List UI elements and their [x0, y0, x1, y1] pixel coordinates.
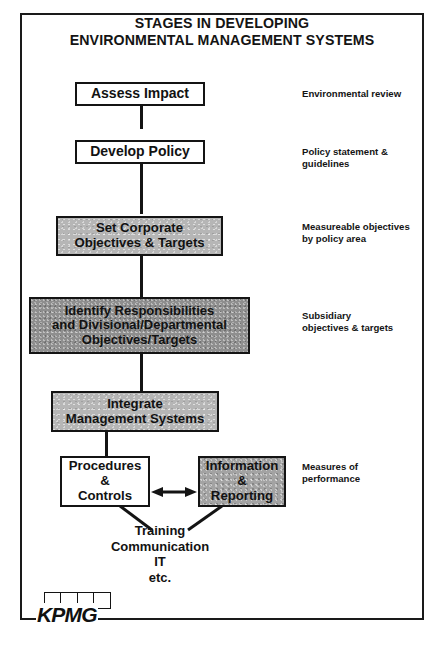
node-assess-impact-line-1: Assess Impact	[91, 86, 189, 102]
node-procedures-controls-line-3: Controls	[78, 489, 132, 504]
node-identify-responsibilities-line-2: and Divisional/Departmental	[52, 318, 227, 333]
annotation-measureable-objectives: Measureable objectives by policy area	[302, 221, 410, 244]
node-information-reporting-line-2: &	[237, 474, 247, 489]
connector-assess-to-policy	[140, 105, 143, 129]
annotation-subsidiary-objectives: Subsidiary objectives & targets	[302, 310, 393, 333]
kpmg-logo: KPMG	[36, 592, 128, 632]
connector-responsibilities-to-integrate	[140, 354, 143, 391]
page-title-line-1: STAGES IN DEVELOPING	[24, 15, 420, 32]
caption-line-2: Communication	[60, 539, 260, 555]
annotation-subsidiary-objectives-line-2: objectives & targets	[302, 322, 393, 334]
node-assess-impact[interactable]: Assess Impact	[75, 82, 205, 106]
node-procedures-controls-line-2: &	[100, 474, 110, 489]
annotation-policy-statement-line-2: guidelines	[302, 158, 388, 170]
annotation-measureable-objectives-line-1: Measureable objectives	[302, 221, 410, 233]
node-set-corporate-objectives[interactable]: Set Corporate Objectives & Targets	[56, 216, 223, 256]
node-information-reporting-line-3: Reporting	[211, 489, 273, 504]
annotation-subsidiary-objectives-line-1: Subsidiary	[302, 310, 393, 322]
connector-objectives-to-responsibilities	[140, 256, 143, 297]
node-information-reporting[interactable]: Information & Reporting	[198, 456, 286, 507]
page-title: STAGES IN DEVELOPING ENVIRONMENTAL MANAG…	[24, 15, 420, 49]
caption-training-block: Training Communication IT etc.	[60, 523, 260, 585]
diagram-page: STAGES IN DEVELOPING ENVIRONMENTAL MANAG…	[0, 0, 447, 645]
annotation-measures-of-performance-line-2: performance	[302, 473, 360, 485]
annotation-environmental-review-line-1: Environmental review	[302, 88, 401, 100]
caption-line-3: IT	[60, 554, 260, 570]
connector-policy-to-objectives	[140, 163, 143, 214]
node-integrate-management-systems-line-2: Management Systems	[66, 412, 205, 427]
node-procedures-controls-line-1: Procedures	[69, 459, 142, 474]
caption-line-1: Training	[60, 523, 260, 539]
page-title-line-2: ENVIRONMENTAL MANAGEMENT SYSTEMS	[24, 32, 420, 49]
annotation-measureable-objectives-line-2: by policy area	[302, 233, 410, 245]
annotation-environmental-review: Environmental review	[302, 88, 401, 100]
node-set-corporate-objectives-line-2: Objectives & Targets	[74, 236, 204, 251]
node-develop-policy-line-1: Develop Policy	[90, 144, 190, 160]
annotation-policy-statement-line-1: Policy statement &	[302, 146, 388, 158]
node-develop-policy[interactable]: Develop Policy	[75, 140, 205, 164]
annotation-policy-statement: Policy statement & guidelines	[302, 146, 388, 169]
node-set-corporate-objectives-line-1: Set Corporate	[96, 221, 183, 236]
node-integrate-management-systems-line-1: Integrate	[107, 397, 163, 412]
node-integrate-management-systems[interactable]: Integrate Management Systems	[51, 391, 219, 432]
kpmg-wordmark: KPMG	[36, 603, 98, 627]
caption-line-4: etc.	[60, 570, 260, 586]
node-identify-responsibilities[interactable]: Identify Responsibilities and Divisional…	[29, 297, 250, 354]
node-identify-responsibilities-line-3: Objectives/Targets	[82, 333, 197, 348]
annotation-measures-of-performance-line-1: Measures of	[302, 461, 360, 473]
node-identify-responsibilities-line-1: Identify Responsibilities	[65, 304, 215, 319]
node-procedures-controls[interactable]: Procedures & Controls	[60, 456, 150, 507]
annotation-measures-of-performance: Measures of performance	[302, 461, 360, 484]
node-information-reporting-line-1: Information	[206, 459, 279, 474]
